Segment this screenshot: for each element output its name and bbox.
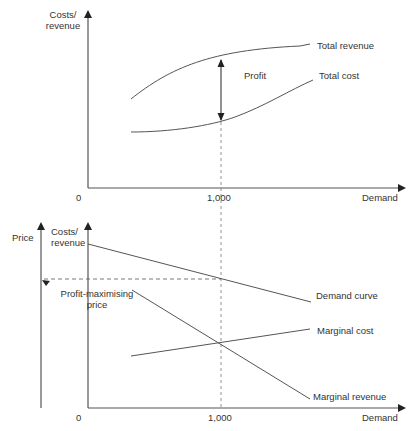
marginal-revenue-label: Marginal revenue xyxy=(313,391,386,402)
bottom-x-axis-label: Demand xyxy=(362,412,398,423)
bottom-y-axis-label: Costs/ revenue xyxy=(51,226,85,248)
profit-arrow-down-icon xyxy=(218,113,225,121)
bottom-chart xyxy=(41,226,402,408)
demand-curve-label: Demand curve xyxy=(316,290,378,301)
marginal-cost-label: Marginal cost xyxy=(317,325,374,336)
top-x-axis-label: Demand xyxy=(362,192,398,203)
top-y-axis-label: Costs/ revenue xyxy=(40,9,86,31)
price-axis-label: Price xyxy=(12,232,34,243)
price-pointer-arrow-icon xyxy=(42,280,50,286)
bottom-y-label-line2: revenue xyxy=(51,237,85,248)
total-revenue-label: Total revenue xyxy=(317,40,374,51)
profit-arrow-up-icon xyxy=(218,59,225,67)
profit-maximising-price-label: Profit-maximising price xyxy=(52,288,142,310)
top-origin-label: 0 xyxy=(76,192,81,203)
bottom-tick-1000: 1,000 xyxy=(208,412,232,423)
profit-label: Profit xyxy=(244,70,266,81)
top-y-label-line1: Costs/ xyxy=(40,9,86,20)
diagram-canvas xyxy=(0,0,415,431)
top-y-label-line2: revenue xyxy=(40,20,86,31)
bottom-origin-label: 0 xyxy=(76,412,81,423)
pmp-line2: price xyxy=(52,299,142,310)
pmp-line1: Profit-maximising xyxy=(52,288,142,299)
marginal-cost-line xyxy=(131,329,310,356)
bottom-y-label-line1: Costs/ xyxy=(51,226,85,237)
total-cost-label: Total cost xyxy=(319,70,359,81)
total-cost-curve xyxy=(131,80,313,132)
top-tick-1000: 1,000 xyxy=(207,192,231,203)
